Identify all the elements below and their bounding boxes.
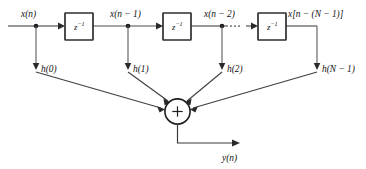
label-coeff-h2: h(2) — [227, 64, 243, 75]
arrowhead-coeff-h0 — [33, 63, 40, 70]
summing-junction[interactable] — [165, 99, 190, 124]
wire-hN1-to-sum — [193, 72, 317, 108]
arrowhead-into-delay2 — [156, 23, 163, 30]
ellipsis-dots-icon — [230, 25, 240, 27]
arrowhead-coeff-h1 — [125, 63, 132, 70]
arrowhead-into-delay3 — [251, 23, 258, 30]
output-path — [177, 124, 240, 146]
arrowhead-output — [232, 140, 240, 147]
delay1-exp: −1 — [77, 20, 84, 27]
arrowhead-coeff-hN1 — [314, 63, 321, 70]
label-coeff-h1: h(1) — [133, 64, 149, 75]
fir-filter-diagram: z−1 z−1 z−1 — [0, 0, 366, 169]
delay3-exp: −1 — [270, 20, 277, 27]
coefficient-arrowheads — [33, 63, 321, 70]
arrowhead-into-delay1 — [58, 23, 65, 30]
signal-flow-graph: z−1 z−1 z−1 — [0, 0, 366, 169]
wire-h0-to-sum — [36, 72, 161, 108]
arrowhead-coeff-h2 — [219, 63, 226, 70]
arrowhead-sum-left-outer — [157, 107, 165, 113]
label-signal-x-n-N-1: x[n − (N − 1)] — [287, 9, 344, 20]
wire-h2-to-sum — [187, 72, 222, 101]
delay2-exp: −1 — [175, 20, 182, 27]
wire-h1-to-sum — [128, 72, 168, 101]
label-signal-x-n-2: x(n − 2) — [203, 9, 235, 20]
label-signal-x-n-1: x(n − 1) — [109, 9, 141, 20]
label-signal-x-n: x(n) — [20, 9, 36, 20]
label-coeff-h0: h(0) — [41, 64, 57, 75]
label-output-y-n: y(n) — [221, 153, 237, 164]
label-coeff-hN1: h(N − 1) — [322, 64, 355, 75]
